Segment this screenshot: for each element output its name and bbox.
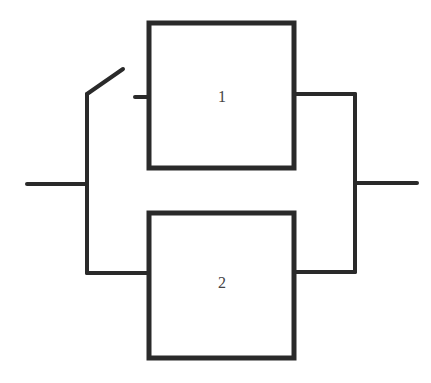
block-2-label: 2: [218, 274, 226, 291]
reliability-diagram: 1 2: [0, 0, 431, 383]
block-2: 2: [149, 213, 294, 358]
block-1-label: 1: [218, 88, 226, 105]
block-1: 1: [149, 23, 294, 168]
switch-icon: [87, 69, 123, 94]
